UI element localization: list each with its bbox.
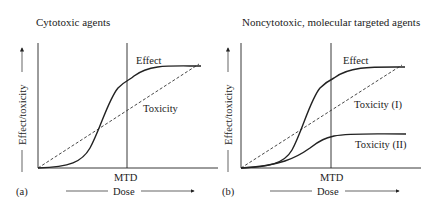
toxicity-line	[38, 64, 199, 168]
toxicity-1-line	[241, 65, 402, 168]
toxicity-1-label: Toxicity (I)	[354, 99, 402, 111]
y-axis-label: Effect/toxicity	[223, 84, 234, 145]
effect-label: Effect	[136, 55, 162, 66]
panel-a-title: Cytotoxic agents	[36, 16, 110, 28]
panel-a-label: (a)	[16, 186, 28, 198]
effect-curve	[241, 67, 405, 168]
effect-label: Effect	[343, 55, 369, 66]
x-axis-label: Dose	[317, 186, 339, 197]
panel-a: Cytotoxic agents Effect/toxicity Effect …	[16, 16, 218, 198]
toxicity-2-label: Toxicity (II)	[355, 139, 407, 151]
mtd-label: MTD	[114, 172, 138, 183]
panel-b: Noncytotoxic, molecular targeted agents …	[222, 16, 421, 198]
figure: Cytotoxic agents Effect/toxicity Effect …	[0, 0, 437, 202]
toxicity-label: Toxicity	[143, 103, 179, 114]
effect-curve	[38, 66, 201, 168]
panel-b-title: Noncytotoxic, molecular targeted agents	[242, 16, 420, 28]
x-axis-label: Dose	[113, 186, 135, 197]
mtd-label: MTD	[320, 172, 344, 183]
panel-b-label: (b)	[222, 186, 235, 198]
y-axis-label: Effect/toxicity	[17, 84, 28, 145]
